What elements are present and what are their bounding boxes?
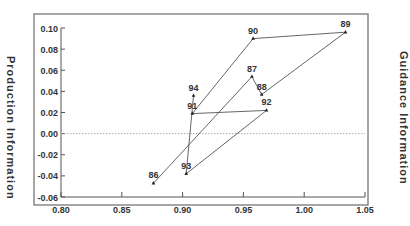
data-point-label: 93 bbox=[181, 161, 191, 171]
data-series: 868788899091929394 bbox=[148, 19, 350, 184]
data-point-label: 92 bbox=[261, 97, 271, 107]
data-point-marker bbox=[192, 93, 196, 96]
data-point-label: 90 bbox=[248, 26, 258, 36]
y-tick-label: -0.04 bbox=[37, 171, 58, 181]
y-tick-label: 0.02 bbox=[40, 108, 58, 118]
data-point-label: 88 bbox=[257, 82, 267, 92]
x-tick-label: 0.95 bbox=[235, 205, 253, 215]
y-tick-label: 0.08 bbox=[40, 45, 58, 55]
tick-labels: 0.100.080.060.040.020.00-0.02-0.04-0.060… bbox=[37, 24, 373, 216]
x-tick-label: 1.05 bbox=[356, 205, 374, 215]
data-point-label: 94 bbox=[189, 83, 199, 93]
x-tick-label: 1.00 bbox=[295, 205, 313, 215]
scatter-line-chart: 868788899091929394 0.100.080.060.040.020… bbox=[0, 0, 410, 226]
x-tick-label: 0.80 bbox=[52, 205, 70, 215]
x-tick-label: 0.90 bbox=[174, 205, 192, 215]
chart-frame bbox=[34, 14, 368, 205]
y-tick-label: -0.02 bbox=[37, 150, 58, 160]
y-tick-label: 0.00 bbox=[40, 129, 58, 139]
y-axis-label-left: Production Information bbox=[5, 56, 17, 166]
y-tick-label: 0.04 bbox=[40, 87, 58, 97]
data-point-marker bbox=[265, 108, 269, 111]
y-tick-label: 0.06 bbox=[40, 66, 58, 76]
x-tick-label: 0.85 bbox=[113, 205, 131, 215]
data-point-label: 86 bbox=[148, 170, 158, 180]
y-tick-label: 0.10 bbox=[40, 24, 58, 34]
data-point-label: 91 bbox=[187, 101, 197, 111]
y-tick-label: -0.06 bbox=[37, 193, 58, 203]
y-axis-label-right: Guidance Information bbox=[398, 51, 410, 171]
data-point-label: 87 bbox=[247, 64, 257, 74]
data-point-label: 89 bbox=[341, 19, 351, 29]
data-point-marker bbox=[250, 74, 254, 77]
